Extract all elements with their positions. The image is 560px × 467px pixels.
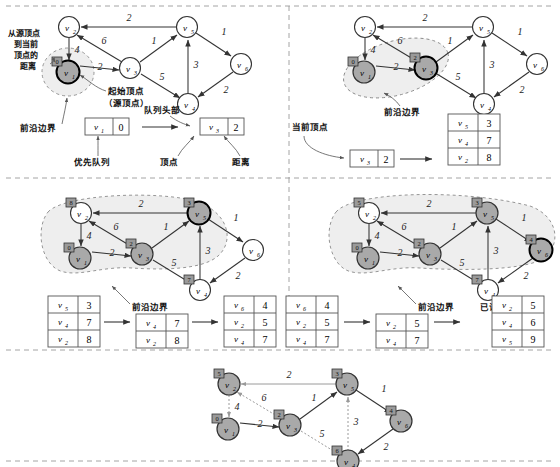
node-subscript: 1 xyxy=(232,431,235,437)
node-label: v xyxy=(426,250,430,260)
annotation-priority-queue: 优先队列 xyxy=(74,157,110,167)
annotation-distance-col: 距离 xyxy=(232,157,250,167)
distance-badge-v2: 8 xyxy=(66,198,76,207)
panel-2: 2 6 4 2 1 5 3 1 2 v 2 v 5 xyxy=(292,12,548,167)
node-subscript: 6 xyxy=(545,252,548,258)
cell-vertex: v xyxy=(234,334,238,344)
cell-distance: 8 xyxy=(175,335,180,346)
annotation-start-vertex-sub: （源顶点） xyxy=(104,98,149,108)
node-v6[interactable]: v 6 xyxy=(527,54,548,75)
node-label: v xyxy=(364,254,368,264)
distance-badge-v5: 3 xyxy=(472,198,482,207)
cell-vertex-sub: 4 xyxy=(153,324,156,330)
badge-value: 5 xyxy=(217,370,220,377)
queue-table-4b: v 2 5 v 4 7 xyxy=(376,314,428,348)
node-subscript: 1 xyxy=(372,260,375,266)
cell-vertex-sub: 5 xyxy=(509,340,512,346)
node-v2[interactable]: v 2 xyxy=(355,17,376,38)
node-subscript: 6 xyxy=(245,66,248,72)
cell-distance: 7 xyxy=(415,335,420,346)
cell-vertex-sub: 6 xyxy=(303,306,306,312)
cell-vertex-sub: 1 xyxy=(101,128,104,134)
cell-distance: 5 xyxy=(263,317,268,328)
annotations: 前沿边界 xyxy=(112,286,168,312)
node-subscript: 6 xyxy=(405,423,408,429)
node-label: v xyxy=(422,64,426,74)
node-label: v xyxy=(76,254,80,264)
edge-weight: 2 xyxy=(423,12,428,23)
leader-current-vertex xyxy=(304,136,344,158)
node-label: v xyxy=(343,380,347,390)
node-label: v xyxy=(484,286,488,296)
node-label: v xyxy=(361,23,365,33)
edge-weight: 2 xyxy=(524,270,529,281)
cell-vertex-sub: 4 xyxy=(509,323,512,329)
distance-badge-v4: 7 xyxy=(184,275,194,284)
distance-badge-v1: 0 xyxy=(352,243,362,252)
node-v5[interactable]: v 5 xyxy=(177,17,198,38)
cell-distance: 7 xyxy=(487,135,492,146)
node-subscript: 2 xyxy=(233,386,236,392)
panel-1: 2 6 4 2 1 5 3 1 2 v 2 v 5 xyxy=(8,12,252,167)
edge-weight: 2 xyxy=(520,84,525,95)
cell-distance: 5 xyxy=(325,317,330,328)
cell-vertex-sub: 5 xyxy=(65,306,68,312)
edge-weight: 1 xyxy=(152,35,157,46)
edge-weight: 2 xyxy=(287,369,292,380)
distance-badge-v4: 7 xyxy=(472,275,482,284)
queue-table-1a: v 1 0 xyxy=(85,118,129,135)
leader-distance-col xyxy=(224,136,240,156)
queue-table-3a: v 5 3 v 4 7 v 2 8 xyxy=(48,296,100,347)
annotation-frontier: 前沿边界 xyxy=(132,302,168,312)
node-v3[interactable]: v 3 xyxy=(120,58,141,79)
badge-value: 2 xyxy=(417,240,420,247)
panel-4: 2 6 4 2 1 5 3 1 2 v 2 v 4 xyxy=(286,195,555,348)
edge-weight: 2 xyxy=(394,61,399,72)
node-subscript: 3 xyxy=(433,256,437,262)
cell-vertex-sub: 4 xyxy=(465,141,468,147)
node-subscript: 3 xyxy=(145,256,149,262)
node-v5[interactable]: v 5 xyxy=(473,17,494,38)
cell-vertex: v xyxy=(296,317,300,327)
annotation-frontier: 前沿边界 xyxy=(418,302,454,312)
node-v2[interactable]: v 2 xyxy=(59,17,80,38)
figure-root: 2 6 4 2 1 5 3 1 2 v 2 v 5 xyxy=(0,0,560,467)
panel-5: 2 6 4 2 1 5 3 1 2 v 2 v 5 xyxy=(212,369,412,467)
cell-vertex: v xyxy=(146,335,150,345)
node-v6[interactable]: v 6 xyxy=(231,54,252,75)
leader-queue-head xyxy=(170,116,190,126)
node-subscript: 4 xyxy=(352,463,355,467)
edge-weight: 1 xyxy=(382,383,387,394)
node-subscript: 2 xyxy=(369,29,372,35)
edge-weight: 4 xyxy=(375,230,380,241)
node-subscript: 5 xyxy=(487,29,490,35)
edge-weight: 2 xyxy=(258,418,263,429)
cell-vertex: v xyxy=(296,334,300,344)
cell-vertex: v xyxy=(386,335,390,345)
cell-vertex: v xyxy=(458,118,462,128)
cell-distance: 4 xyxy=(325,300,330,311)
edge-weight: 5 xyxy=(160,71,165,82)
cell-vertex-sub: 2 xyxy=(465,158,468,164)
edge-weight: 1 xyxy=(222,26,227,37)
edge-weight: 5 xyxy=(460,257,465,268)
node-label: v xyxy=(77,209,81,219)
edge-weight: 5 xyxy=(172,257,177,268)
cell-vertex: v xyxy=(296,300,300,310)
distance-badge-v4: 6 xyxy=(332,446,342,455)
node-label: v xyxy=(65,23,69,33)
cell-vertex: v xyxy=(502,334,506,344)
distance-badge-v3: 2 xyxy=(410,53,420,62)
node-v6[interactable]: v 6 xyxy=(243,240,264,261)
cell-vertex-sub: 2 xyxy=(509,306,512,312)
node-label: v xyxy=(195,209,199,219)
edge-weight: 4 xyxy=(371,44,376,55)
node-v4[interactable]: v 4 xyxy=(474,94,495,115)
node-subscript: 6 xyxy=(257,252,260,258)
node-v4[interactable]: v 4 xyxy=(178,94,199,115)
edge-weight: 2 xyxy=(224,84,229,95)
badge-value: 0 xyxy=(215,415,218,422)
node-subscript: 5 xyxy=(203,215,206,221)
cell-distance: 2 xyxy=(384,154,389,165)
node-subscript: 1 xyxy=(84,260,87,266)
